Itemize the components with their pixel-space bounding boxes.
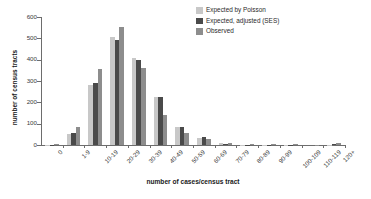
bar xyxy=(293,144,298,145)
bar xyxy=(119,27,124,145)
bar xyxy=(98,69,103,145)
legend-item: Expected by Poisson xyxy=(196,6,279,15)
bar xyxy=(315,145,320,146)
y-axis-title: number of census tracts xyxy=(11,28,18,148)
x-axis-tick xyxy=(323,145,324,148)
y-axis-tick-label: 300 xyxy=(15,78,37,84)
x-axis-tick-label: 40-49 xyxy=(169,149,185,165)
x-axis-tick-label: 1-9 xyxy=(80,149,91,160)
legend-item-label: Observed xyxy=(206,28,234,34)
x-axis-tick xyxy=(302,145,303,148)
y-axis-tick-label: 0 xyxy=(15,142,37,148)
legend-swatch-icon xyxy=(196,18,203,25)
x-axis-tick-label: 90-99 xyxy=(278,149,294,165)
bar xyxy=(228,143,233,145)
x-axis-tick xyxy=(345,145,346,148)
bar-group xyxy=(326,17,342,145)
x-axis-tick xyxy=(193,145,194,148)
x-axis-tick xyxy=(280,145,281,148)
x-axis-tick-label: 10-19 xyxy=(104,149,120,165)
x-axis-tick-label: 50-59 xyxy=(191,149,207,165)
plot-area: 0100200300400500600 01-910-1920-2930-394… xyxy=(41,17,345,145)
y-axis-tick xyxy=(37,145,41,146)
bar xyxy=(163,115,168,145)
x-axis-title: number of cases/census tract xyxy=(41,178,345,185)
x-axis-tick xyxy=(258,145,259,148)
legend-item-label: Expected, adjusted (SES) xyxy=(206,18,279,24)
y-axis-tick-label: 400 xyxy=(15,56,37,62)
x-axis-tick-label: 110-119 xyxy=(323,149,343,169)
legend-swatch-icon xyxy=(196,7,203,14)
bar xyxy=(250,144,255,145)
y-axis-tick-label: 600 xyxy=(15,14,37,20)
x-axis-tick-label: 20-29 xyxy=(126,149,142,165)
x-axis-tick xyxy=(215,145,216,148)
x-axis-tick-label: 30-39 xyxy=(147,149,163,165)
x-axis-tick xyxy=(63,145,64,148)
bar xyxy=(76,127,81,145)
legend-item-label: Expected by Poisson xyxy=(206,7,266,13)
bar-group xyxy=(283,17,299,145)
x-axis-tick xyxy=(150,145,151,148)
bar xyxy=(184,133,189,145)
x-axis-tick xyxy=(128,145,129,148)
x-axis-tick-label: 80-89 xyxy=(256,149,272,165)
x-axis-tick xyxy=(106,145,107,148)
legend-item: Observed xyxy=(196,27,279,36)
legend: Expected by Poisson Expected, adjusted (… xyxy=(196,6,279,38)
bar-group xyxy=(44,17,60,145)
y-axis-tick-label: 500 xyxy=(15,35,37,41)
bar-group xyxy=(109,17,125,145)
x-axis-tick-label: 70-79 xyxy=(234,149,250,165)
bar xyxy=(271,144,276,145)
bar xyxy=(336,143,341,145)
x-axis-tick xyxy=(236,145,237,148)
bar xyxy=(206,139,211,145)
legend-item: Expected, adjusted (SES) xyxy=(196,17,279,26)
figure: number of census tracts 0100200300400500… xyxy=(0,0,371,199)
bar-group xyxy=(174,17,190,145)
bar-group xyxy=(304,17,320,145)
x-axis-tick xyxy=(171,145,172,148)
x-axis-tick-label: 0 xyxy=(57,149,64,156)
bar-group xyxy=(87,17,103,145)
bar xyxy=(141,68,146,145)
bar-group xyxy=(66,17,82,145)
y-axis-tick-label: 200 xyxy=(15,99,37,105)
x-axis-tick-label: 60-69 xyxy=(212,149,228,165)
bar-group xyxy=(131,17,147,145)
bar xyxy=(54,144,59,145)
legend-swatch-icon xyxy=(196,28,203,35)
x-axis-tick-label: 100-109 xyxy=(301,149,321,169)
bar-groups xyxy=(41,17,345,145)
bar-group xyxy=(152,17,168,145)
y-axis-tick-label: 100 xyxy=(15,120,37,126)
x-axis-tick-label: 120+ xyxy=(342,149,356,163)
